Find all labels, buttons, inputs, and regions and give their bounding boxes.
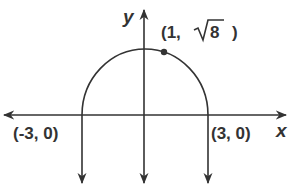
radicand: 8 <box>210 23 219 42</box>
radical-sign <box>194 20 224 40</box>
y-axis-label: y <box>122 6 135 27</box>
point-label-left: (-3, 0) <box>13 124 58 143</box>
semicircle-graph: y x (-3, 0) (3, 0) (1, 8 ) <box>0 0 293 186</box>
x-axis-label: x <box>275 120 288 141</box>
point-marker <box>161 49 167 55</box>
point-label-right: (3, 0) <box>211 124 251 143</box>
point-label-top: (1, <box>161 23 181 42</box>
semicircle-curve <box>82 49 208 115</box>
close-paren: ) <box>232 23 238 42</box>
